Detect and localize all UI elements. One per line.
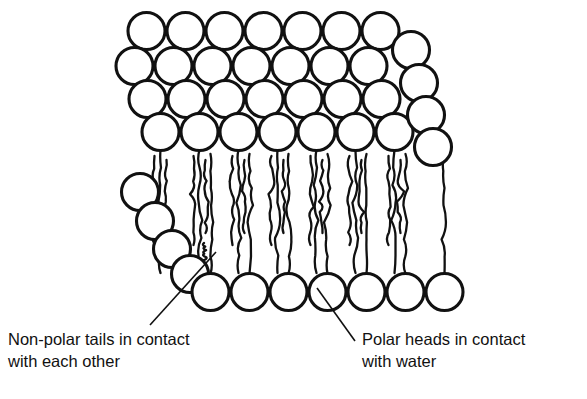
lipid-head-circle <box>415 129 452 166</box>
lipid-head-circle <box>233 48 270 85</box>
lipid-tail <box>269 156 275 245</box>
left-caption-line-1: Non-polar tails in contact <box>8 330 190 348</box>
lipid-head-circle <box>298 114 335 151</box>
lipid-head-circle <box>246 81 283 118</box>
lipid-tail <box>403 154 408 274</box>
lipid-head-circle <box>220 114 257 151</box>
lipid-head-circle <box>128 13 165 50</box>
lipid-tail <box>314 150 319 273</box>
lipid-head-circle <box>324 81 361 118</box>
lipid-tail <box>358 160 364 233</box>
lipid-head-circle <box>323 13 360 50</box>
lipid-head-circle <box>350 48 387 85</box>
lipid-head-circle <box>259 114 296 151</box>
lipid-tail <box>204 160 209 233</box>
lipid-head-circle <box>363 81 400 118</box>
bilayer-figure: Non-polar tails in contact with each oth… <box>0 0 587 399</box>
lipid-head-circle <box>231 274 268 311</box>
lipid-head-circle <box>116 48 153 85</box>
lipid-tail <box>275 150 280 273</box>
lipid-head-circle <box>181 114 218 151</box>
right-caption-line-1: Polar heads in contact <box>362 330 526 348</box>
lipid-tail <box>365 154 367 274</box>
lipid-head-circle <box>311 48 348 85</box>
upper-leaflet-heads <box>116 13 413 151</box>
lipid-head-circle <box>142 114 179 151</box>
lipid-head-circle <box>245 13 282 50</box>
lipid-tail <box>309 156 314 245</box>
lipid-head-circle <box>387 274 424 311</box>
lipid-head-circle <box>207 81 244 118</box>
lipid-tail <box>248 154 253 274</box>
lipid-tail <box>230 156 235 245</box>
lipid-tail <box>198 150 202 273</box>
lipid-head-circle <box>426 274 463 311</box>
lipid-head-circle <box>129 81 166 118</box>
lipid-head-circle <box>270 274 307 311</box>
lower-leaflet-heads <box>192 274 463 311</box>
lipid-head-circle <box>168 81 205 118</box>
lipid-head-circle <box>285 81 322 118</box>
lipid-tail <box>282 160 285 233</box>
membrane-diagram: Non-polar tails in contact with each oth… <box>0 0 587 399</box>
lipid-head-circle <box>192 274 229 311</box>
lipid-tail <box>391 150 396 273</box>
lipid-tail <box>319 160 323 233</box>
lipid-tail <box>242 160 246 233</box>
lipid-tail <box>347 156 352 245</box>
lipid-tail <box>324 154 331 274</box>
lipid-tail <box>286 154 291 274</box>
left-caption-line-2: with each other <box>7 352 120 370</box>
lipid-tail <box>352 150 358 273</box>
lipid-head-circle <box>337 114 374 151</box>
lipid-tail <box>190 156 195 245</box>
lipid-head-circle <box>272 48 309 85</box>
lipid-head-circle <box>393 32 430 69</box>
lipid-head-circle <box>284 13 321 50</box>
right-caption-line-2: with water <box>361 352 437 370</box>
lipid-head-circle <box>206 13 243 50</box>
lipid-tail <box>397 160 404 233</box>
lipid-tail <box>442 154 446 274</box>
lipid-head-circle <box>155 48 192 85</box>
lipid-tail <box>236 150 241 273</box>
lipid-tail <box>387 156 391 245</box>
lipid-head-circle <box>309 274 346 311</box>
lipid-head-circle <box>348 274 385 311</box>
lipid-head-circle <box>167 13 204 50</box>
lipid-head-circle <box>194 48 231 85</box>
